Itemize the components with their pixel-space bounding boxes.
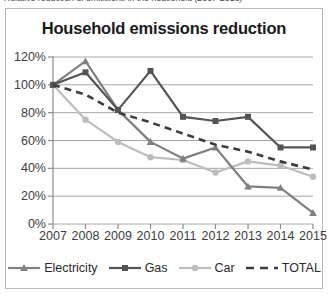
plot-svg [53, 57, 313, 224]
data-point-car [147, 154, 153, 160]
legend-label: Car [215, 261, 235, 275]
x-axis-label: 2008 [72, 229, 100, 243]
data-point-car [245, 158, 251, 164]
y-axis-label: 100% [14, 78, 46, 92]
legend-item-gas[interactable]: Gas [108, 261, 168, 275]
y-axis-label: 40% [21, 161, 46, 175]
legend-label: Gas [145, 261, 168, 275]
x-axis-label: 2012 [202, 229, 230, 243]
data-point-gas [148, 68, 154, 74]
figure-caption-text: Relative reduction of emissions in the h… [4, 0, 243, 3]
chart-screenshot: Relative reduction of emissions in the h… [0, 0, 330, 294]
chart-legend: ElectricityGasCarTOTAL [6, 254, 322, 282]
data-point-car [310, 173, 316, 179]
legend-swatch-gas-icon [108, 262, 142, 274]
legend-swatch-electricity-icon [7, 262, 41, 274]
data-point-gas [245, 114, 251, 120]
data-point-gas [213, 118, 219, 124]
y-axis-label: 60% [21, 134, 46, 148]
x-axis-label: 2010 [137, 229, 165, 243]
y-axis-label: 120% [14, 50, 46, 64]
x-axis-label: 2007 [39, 229, 67, 243]
x-axis-label: 2014 [267, 229, 295, 243]
legend-item-electricity[interactable]: Electricity [7, 261, 97, 275]
plot-area [53, 57, 313, 224]
legend-label: TOTAL [282, 261, 321, 275]
y-axis-labels: 0%20%40%60%80%100%120% [6, 49, 50, 234]
x-axis-labels: 200720082009201020112012201320142015 [53, 229, 313, 249]
data-point-car [277, 162, 283, 168]
data-point-car [212, 169, 218, 175]
legend-item-total[interactable]: TOTAL [245, 261, 321, 275]
legend-item-car[interactable]: Car [178, 261, 235, 275]
data-point-car [82, 116, 88, 122]
data-point-gas [83, 69, 89, 75]
legend-swatch-total-icon [245, 262, 279, 274]
y-axis-label: 80% [21, 106, 46, 120]
chart-frame: Household emissions reduction 0%20%40%60… [5, 8, 323, 289]
data-point-gas [180, 114, 186, 120]
x-axis-label: 2013 [234, 229, 262, 243]
legend-swatch-car-icon [178, 262, 212, 274]
series-line-electricity [53, 61, 313, 213]
legend-label: Electricity [44, 261, 97, 275]
series-line-gas [53, 71, 313, 148]
y-axis-label: 20% [21, 189, 46, 203]
data-point-car [115, 139, 121, 145]
data-point-gas [310, 144, 316, 150]
x-axis-label: 2011 [170, 229, 197, 243]
x-axis-label: 2015 [299, 229, 327, 243]
data-point-gas [278, 144, 284, 150]
x-axis-label: 2009 [104, 229, 132, 243]
data-point-electricity [82, 57, 90, 64]
figure-caption-cutoff: Relative reduction of emissions in the h… [0, 0, 330, 7]
chart-title: Household emissions reduction [6, 19, 322, 38]
